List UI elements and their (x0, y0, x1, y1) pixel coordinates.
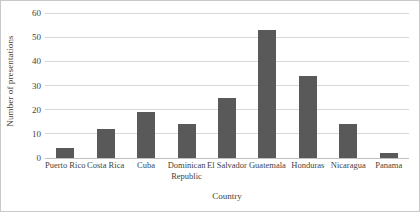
y-tick-label-50: 50 (19, 33, 41, 42)
bar[interactable] (339, 124, 357, 158)
bar[interactable] (56, 148, 74, 158)
x-axis-title: Country (45, 191, 409, 201)
bar[interactable] (178, 124, 196, 158)
bar[interactable] (380, 153, 398, 158)
bar-slot (166, 13, 206, 158)
x-tick-label: Panama (369, 160, 409, 190)
y-tick-label-20: 20 (19, 105, 41, 114)
bar[interactable] (258, 30, 276, 158)
bar-slot (288, 13, 328, 158)
y-axis-title-text: Number of presentations (5, 35, 15, 126)
y-tick-label-0: 0 (19, 154, 41, 163)
bars-layer (45, 13, 409, 158)
bar-slot (207, 13, 247, 158)
bar-slot (85, 13, 125, 158)
plot-area (45, 13, 409, 158)
y-tick-label-30: 30 (19, 81, 41, 90)
y-axis-tick-labels: 0102030405060 (19, 13, 41, 158)
x-tick-label: Costa Rica (85, 160, 125, 190)
x-tick-label: Cuba (126, 160, 166, 190)
x-tick-label: Nicaragua (328, 160, 368, 190)
y-axis-title: Number of presentations (1, 1, 19, 161)
x-tick-label: Guatemala (247, 160, 287, 190)
x-axis-tick-labels: Puerto RicoCosta RicaCubaDominican Repub… (45, 160, 409, 190)
y-tick-label-10: 10 (19, 129, 41, 138)
bar[interactable] (97, 129, 115, 158)
bar-slot (369, 13, 409, 158)
x-tick-label: Dominican Republic (166, 160, 206, 190)
x-tick-label: Puerto Rico (45, 160, 85, 190)
bar-slot (247, 13, 287, 158)
bar-chart-figure: Number of presentations 0102030405060 Pu… (0, 0, 420, 212)
x-axis-title-text: Country (212, 191, 242, 201)
y-tick-label-40: 40 (19, 57, 41, 66)
bar[interactable] (137, 112, 155, 158)
x-tick-label: El Salvador (207, 160, 247, 190)
bar-slot (45, 13, 85, 158)
y-tick-label-60: 60 (19, 9, 41, 18)
bar[interactable] (299, 76, 317, 158)
bar-slot (126, 13, 166, 158)
bar[interactable] (218, 98, 236, 158)
x-tick-label: Honduras (288, 160, 328, 190)
bar-slot (328, 13, 368, 158)
